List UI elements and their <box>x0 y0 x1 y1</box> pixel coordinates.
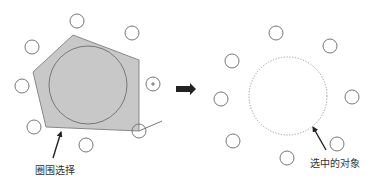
lasso-selection-label: 圈围选择 <box>35 165 75 177</box>
selected-object-label: 选中的对象 <box>310 158 360 170</box>
small-circle <box>214 92 228 106</box>
small-circle <box>79 138 93 152</box>
label-pointer-arrow <box>313 127 326 150</box>
diagram-svg <box>0 0 380 182</box>
label-pointer-arrow <box>53 132 61 158</box>
small-circle <box>70 14 84 28</box>
small-circle <box>27 120 41 134</box>
small-circle <box>125 26 139 40</box>
small-circle <box>345 90 359 104</box>
right-panel-selected-objects <box>214 26 359 165</box>
diagram-canvas: 圈围选择 选中的对象 <box>0 0 380 182</box>
left-panel-lasso-selection <box>15 14 162 158</box>
small-circle <box>25 40 39 54</box>
small-circle <box>15 79 29 93</box>
lasso-cursor-line <box>139 121 162 131</box>
small-circle <box>226 134 240 148</box>
small-circle <box>323 39 337 53</box>
plus-icon <box>151 82 155 86</box>
transition-arrow-icon <box>176 83 196 95</box>
small-circle <box>225 54 239 68</box>
small-circle <box>280 151 294 165</box>
small-circle <box>330 137 344 151</box>
small-circle <box>269 26 283 40</box>
small-circle-objects <box>214 26 359 165</box>
selected-circle-dotted <box>249 57 327 135</box>
